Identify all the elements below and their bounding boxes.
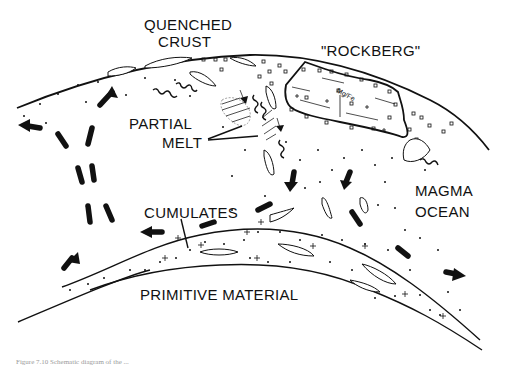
cumulates-upper-boundary	[62, 229, 480, 340]
label-mg-fe: Mg/Fe	[335, 87, 356, 103]
label-crust: CRUST	[158, 33, 211, 50]
label-melt: MELT	[162, 134, 202, 151]
label-ocean: OCEAN	[415, 203, 470, 220]
label-magma: MAGMA	[415, 182, 473, 199]
quenched-crust-blobs	[108, 57, 256, 86]
label-rockberg: "ROCKBERG"	[321, 42, 421, 59]
primitive-boundary	[90, 264, 482, 350]
cumulates-leader	[181, 219, 188, 248]
flow-dashes	[58, 128, 408, 256]
label-primitive-material: PRIMITIVE MATERIAL	[140, 286, 298, 303]
partial-melt-zones	[221, 98, 276, 140]
magma-ocean-diagram: QUENCHED CRUST "ROCKBERG" Mg/Fe PARTIAL …	[0, 0, 509, 366]
melt-dots	[23, 77, 461, 316]
wavy-lines	[153, 83, 438, 165]
label-quenched: QUENCHED	[144, 16, 232, 33]
label-partial: PARTIAL	[129, 115, 192, 132]
figure-caption: Figure 7.10 Schematic diagram of the ...	[16, 358, 129, 366]
label-cumulates: CUMULATES	[144, 204, 238, 221]
